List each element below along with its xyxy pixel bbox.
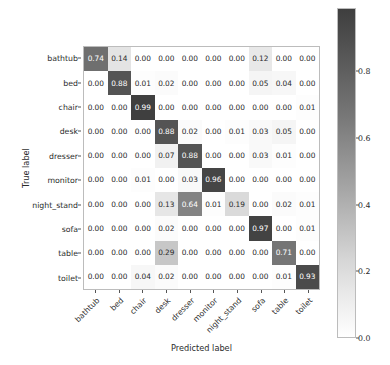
x-tick-mark (213, 290, 214, 293)
heatmap-cell: 0.00 (249, 265, 273, 289)
heatmap-cell: 0.00 (108, 168, 132, 192)
heatmap-cell: 0.00 (202, 71, 226, 95)
heatmap-cell: 0.74 (84, 47, 108, 71)
colorbar-tick-label: 0.2 (358, 267, 370, 276)
heatmap-cell: 0.00 (84, 265, 108, 289)
y-axis-tick-labels: bathtubbedchairdeskdressermonitornight_s… (0, 46, 78, 290)
heatmap-cell: 0.00 (84, 168, 108, 192)
heatmap-cell: 0.01 (202, 192, 226, 216)
heatmap-cell: 0.97 (249, 216, 273, 240)
heatmap-cell: 0.01 (296, 192, 320, 216)
heatmap-cell: 0.19 (225, 192, 249, 216)
heatmap-cell: 0.00 (155, 168, 179, 192)
x-tick-mark (119, 290, 120, 293)
heatmap-cell: 0.02 (155, 71, 179, 95)
y-tick-mark (78, 58, 81, 59)
heatmap-cell: 0.05 (249, 71, 273, 95)
y-tick-mark (78, 253, 81, 254)
heatmap-cell: 0.00 (131, 192, 155, 216)
heatmap-cell: 0.00 (202, 216, 226, 240)
heatmap-cell: 0.88 (108, 71, 132, 95)
heatmap-cell: 0.93 (296, 265, 320, 289)
heatmap-cell: 0.04 (272, 71, 296, 95)
x-tick-mark (237, 290, 238, 293)
heatmap-cell: 0.00 (272, 216, 296, 240)
heatmap-cell: 0.00 (131, 120, 155, 144)
heatmap-cell: 0.00 (131, 47, 155, 71)
colorbar-tick-mark (356, 271, 359, 272)
colorbar: 0.00.20.40.60.8 (337, 8, 356, 338)
heatmap-cell: 0.01 (296, 216, 320, 240)
heatmap-cell: 0.00 (249, 168, 273, 192)
colorbar-tick-mark (356, 138, 359, 139)
heatmap-cell: 0.00 (249, 192, 273, 216)
heatmap-cell: 0.00 (131, 241, 155, 265)
heatmap-cell: 0.00 (155, 47, 179, 71)
heatmap-cell: 0.00 (131, 144, 155, 168)
heatmap-cell: 0.64 (178, 192, 202, 216)
heatmap-cell: 0.03 (249, 120, 273, 144)
heatmap-cell: 0.00 (84, 144, 108, 168)
y-tick-mark (78, 277, 81, 278)
heatmap-cell: 0.00 (272, 168, 296, 192)
y-tick-label: desk (60, 127, 78, 136)
heatmap-cell: 0.00 (178, 216, 202, 240)
heatmap-cell: 0.00 (84, 216, 108, 240)
y-tick-label: monitor (47, 176, 78, 185)
y-tick-label: sofa (62, 225, 78, 234)
y-tick-mark (78, 229, 81, 230)
colorbar-tick-mark (356, 338, 359, 339)
heatmap-cell: 0.00 (84, 120, 108, 144)
y-tick-mark (78, 107, 81, 108)
heatmap-cell: 0.00 (225, 241, 249, 265)
heatmap-cell: 0.00 (296, 71, 320, 95)
y-tick-label: bed (63, 78, 78, 87)
heatmap-cell: 0.00 (131, 216, 155, 240)
heatmap-cell: 0.71 (272, 241, 296, 265)
heatmap-cell: 0.00 (108, 265, 132, 289)
heatmap-cell: 0.03 (249, 144, 273, 168)
confusion-matrix-figure: True label bathtubbedchairdeskdressermon… (0, 0, 390, 365)
heatmap-cell: 0.29 (155, 241, 179, 265)
heatmap-cell: 0.01 (225, 120, 249, 144)
x-tick-mark (308, 290, 309, 293)
x-tick-mark (166, 290, 167, 293)
heatmap-cell: 0.00 (249, 95, 273, 119)
heatmap-cell: 0.02 (155, 216, 179, 240)
heatmap-cell-grid: 0.740.140.000.000.000.000.000.120.000.00… (84, 47, 319, 289)
colorbar-tick-label: 0.0 (358, 334, 370, 343)
heatmap-cell: 0.00 (225, 168, 249, 192)
heatmap-cell: 0.00 (296, 144, 320, 168)
heatmap-cell: 0.00 (178, 265, 202, 289)
y-tick-mark (78, 180, 81, 181)
heatmap-cell: 0.01 (296, 95, 320, 119)
heatmap-cell: 0.00 (272, 47, 296, 71)
y-tick-label: toilet (58, 273, 78, 282)
heatmap-cell: 0.00 (202, 120, 226, 144)
y-tick-mark (78, 204, 81, 205)
heatmap-cell: 0.07 (155, 144, 179, 168)
heatmap-cell: 0.00 (108, 241, 132, 265)
x-tick-mark (95, 290, 96, 293)
heatmap-cell: 0.00 (108, 144, 132, 168)
heatmap-cell: 0.00 (296, 120, 320, 144)
heatmap-cell: 0.02 (178, 120, 202, 144)
y-tick-mark (78, 155, 81, 156)
heatmap-cell: 0.13 (155, 192, 179, 216)
y-tick-label: dresser (49, 151, 78, 160)
heatmap-cell: 0.99 (131, 95, 155, 119)
y-tick-label: night_stand (32, 200, 78, 209)
colorbar-tick-label: 0.4 (358, 200, 370, 209)
heatmap-cell: 0.00 (108, 95, 132, 119)
heatmap-cell: 0.00 (225, 216, 249, 240)
y-tick-mark (78, 82, 81, 83)
y-tick-label: chair (59, 103, 78, 112)
x-tick-label: chair (1, 296, 149, 365)
y-tick-mark (78, 131, 81, 132)
heatmap-cell: 0.88 (155, 120, 179, 144)
heatmap-cell: 0.00 (225, 265, 249, 289)
x-axis-tick-labels: bathtubbedchairdeskdressermonitornight_s… (83, 290, 320, 345)
heatmap-cell: 0.00 (84, 241, 108, 265)
colorbar-tick-label: 0.8 (358, 67, 370, 76)
heatmap-cell: 0.96 (202, 168, 226, 192)
